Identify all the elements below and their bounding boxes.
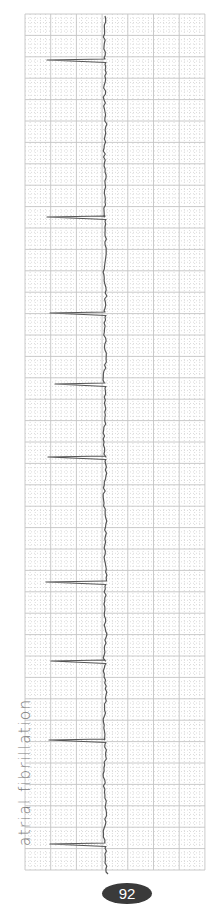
ecg-trace: [46, 16, 108, 874]
ecg-grid-major: [25, 14, 205, 870]
page-number-badge: 92: [102, 883, 152, 904]
rhythm-caption: atrial fibrillation: [16, 698, 34, 846]
